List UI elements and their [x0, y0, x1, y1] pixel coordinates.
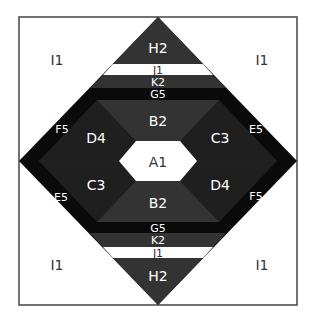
- label-h2-bottom: H2: [148, 268, 167, 284]
- label-i1-bottom-right: I1: [255, 257, 268, 273]
- label-g5-top: G5: [150, 88, 166, 101]
- label-a1-center: A1: [149, 154, 167, 170]
- label-b2-bottom: B2: [149, 195, 168, 211]
- quilt-block-diagram: I1 I1 I1 I1 H2 H2 J1 J1 K2 K2 G5 G5 B2 B…: [0, 0, 313, 324]
- label-f5-right: F5: [249, 190, 262, 203]
- label-k2-bottom: K2: [151, 234, 165, 247]
- label-d4-right: D4: [210, 177, 230, 193]
- label-b2-top: B2: [149, 113, 168, 129]
- label-i1-top-left: I1: [50, 52, 63, 68]
- label-h2-top: H2: [148, 40, 167, 56]
- label-d4-left: D4: [86, 130, 106, 146]
- label-e5-right: E5: [249, 123, 263, 136]
- label-e5-left: E5: [54, 191, 68, 204]
- label-i1-bottom-left: I1: [50, 257, 63, 273]
- label-g5-bottom: G5: [150, 222, 166, 235]
- label-c3-left: C3: [87, 177, 106, 193]
- label-i1-top-right: I1: [255, 52, 268, 68]
- label-j1-bottom: J1: [152, 247, 163, 260]
- label-f5-left: F5: [55, 123, 68, 136]
- label-c3-right: C3: [211, 130, 230, 146]
